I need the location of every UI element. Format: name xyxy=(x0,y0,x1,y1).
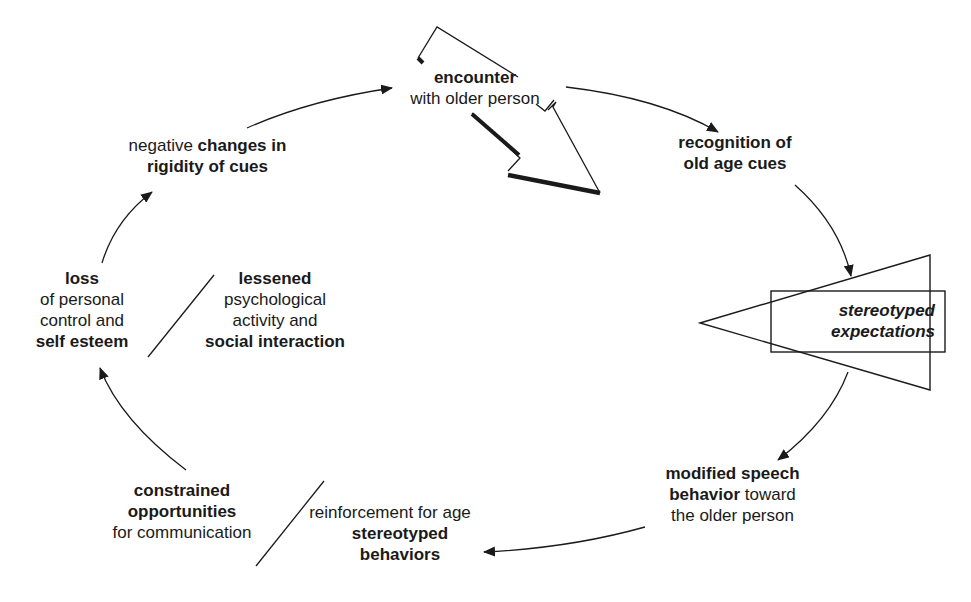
reinforcement-line-3: behaviors xyxy=(360,545,440,564)
arrow-constrained-to-loss xyxy=(100,368,186,470)
recognition-line-1: recognition of xyxy=(678,133,791,152)
arrow-loss-to-negative xyxy=(102,192,152,263)
arrow-negative-to-encounter xyxy=(247,88,392,128)
modified-line-3: the older person xyxy=(645,505,820,526)
node-negative-changes: negative changes in rigidity of cues xyxy=(100,135,315,177)
negative-line-2: rigidity of cues xyxy=(147,157,268,176)
loss-line-2: of personal xyxy=(22,289,142,310)
node-lessened: lessened psychological activity and soci… xyxy=(185,268,365,352)
node-reinforcement: reinforcement for age stereotyped behavi… xyxy=(305,502,475,565)
lessened-line-1: lessened xyxy=(239,269,312,288)
stereo-line-1: stereotyped xyxy=(839,301,935,320)
modified-line-2-normal: toward xyxy=(740,485,796,504)
arrow-modified-to-reinforcement xyxy=(484,527,645,552)
arrow-encounter-to-recognition xyxy=(566,87,718,132)
constrained-line-1: constrained xyxy=(134,481,230,500)
node-stereotyped-expectations: stereotyped expectations xyxy=(780,300,935,342)
negative-line-1-bold: changes in xyxy=(198,136,287,155)
lessened-line-3: activity and xyxy=(185,310,365,331)
reinforcement-line-2: stereotyped xyxy=(352,524,448,543)
encounter-arrow-shape xyxy=(418,27,600,193)
lessened-line-4: social interaction xyxy=(205,332,345,351)
constrained-line-3: for communication xyxy=(92,522,272,543)
loss-line-4: self esteem xyxy=(36,332,129,351)
modified-line-2-bold: behavior xyxy=(669,485,740,504)
node-encounter: encounter with older person xyxy=(395,67,555,109)
arrow-expectations-to-modified xyxy=(778,372,848,460)
node-loss: loss of personal control and self esteem xyxy=(22,268,142,352)
loss-line-1: loss xyxy=(65,269,99,288)
node-constrained: constrained opportunities for communicat… xyxy=(92,480,272,543)
arrow-recognition-to-expectations xyxy=(795,185,851,276)
encounter-title: encounter xyxy=(434,68,516,87)
negative-line-1-normal: negative xyxy=(129,136,198,155)
node-recognition: recognition of old age cues xyxy=(660,132,810,174)
reinforcement-line-1: reinforcement for age xyxy=(305,502,475,523)
lessened-line-2: psychological xyxy=(185,289,365,310)
recognition-line-2: old age cues xyxy=(684,154,787,173)
loss-line-3: control and xyxy=(22,310,142,331)
stereo-line-2: expectations xyxy=(831,322,935,341)
modified-line-1: modified speech xyxy=(665,464,799,483)
node-modified-speech: modified speech behavior toward the olde… xyxy=(645,463,820,526)
constrained-line-2: opportunities xyxy=(128,502,237,521)
encounter-subtitle: with older person xyxy=(395,88,555,109)
